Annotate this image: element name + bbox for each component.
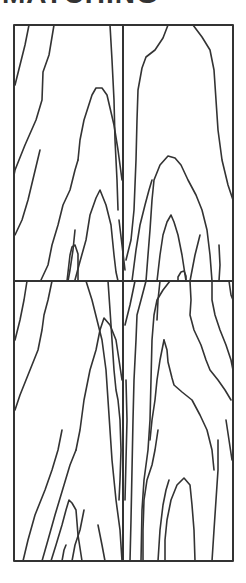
panel-bottom-right xyxy=(125,281,233,561)
wood-grain-figure xyxy=(0,0,246,583)
panel-bottom-left xyxy=(15,281,122,561)
panel-top-left xyxy=(14,25,125,281)
panel-top-right xyxy=(126,25,233,281)
